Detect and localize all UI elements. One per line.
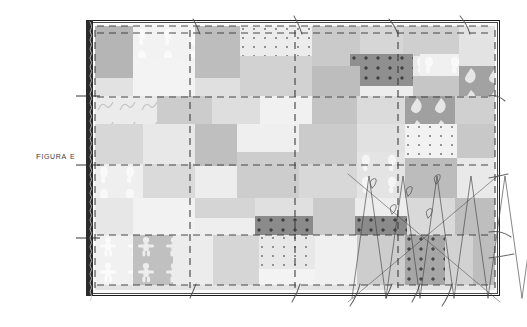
quilt-patch xyxy=(95,198,133,235)
quilt-patch xyxy=(457,158,495,198)
quilt-patch xyxy=(405,96,455,124)
quilt-patch xyxy=(355,198,407,216)
quilt-patch xyxy=(455,96,495,124)
figure-left-spine xyxy=(86,20,93,296)
quilt-patch xyxy=(445,235,473,285)
quilt-patch xyxy=(407,198,455,235)
quilt-patch xyxy=(95,96,157,124)
quilt-patch xyxy=(299,164,357,198)
figure-caption: Figura E xyxy=(36,149,75,162)
quilt-patch xyxy=(240,56,312,96)
quilt-patch xyxy=(195,124,237,166)
quilt-patch xyxy=(237,152,299,198)
quilt-patch xyxy=(313,198,355,235)
quilt-patch xyxy=(459,26,495,66)
quilt-patch xyxy=(315,235,357,285)
quilt-patch xyxy=(143,124,195,164)
quilt-patch xyxy=(95,164,143,198)
quilt-patch xyxy=(133,26,195,58)
quilt-patch xyxy=(357,124,405,152)
quilt-patch xyxy=(405,158,457,198)
quilt-patch xyxy=(195,218,255,235)
quilt-patch xyxy=(405,124,457,158)
quilt-patch xyxy=(413,76,459,96)
quilt-patch xyxy=(312,66,360,96)
quilt-patch xyxy=(259,235,315,269)
quilt-patch xyxy=(173,235,213,285)
quilt-patch xyxy=(405,235,445,285)
quilt-patch xyxy=(157,96,212,124)
quilt-patch xyxy=(420,54,459,76)
quilt-patch xyxy=(259,269,315,285)
quilt-patch xyxy=(95,235,133,285)
quilt-patch xyxy=(143,164,195,198)
quilt-patch xyxy=(95,26,133,78)
quilt-patch xyxy=(212,96,260,124)
quilt-patch xyxy=(360,26,403,54)
quilt-patch xyxy=(299,124,357,164)
quilt-canvas xyxy=(95,26,495,290)
quilt-patch xyxy=(459,66,495,96)
quilt-patch xyxy=(473,235,495,285)
quilt-patch xyxy=(133,235,173,285)
quilt-patch xyxy=(357,235,405,285)
quilt-patch xyxy=(133,58,195,96)
quilt-patch xyxy=(260,96,312,124)
quilt-patch xyxy=(355,216,407,235)
figure-stage: Figura E xyxy=(0,0,527,327)
quilt-patch xyxy=(255,198,313,216)
quilt-patch xyxy=(455,198,495,235)
quilt-patch xyxy=(403,26,459,56)
quilt-patch xyxy=(312,96,357,124)
quilt-patch xyxy=(195,198,255,218)
quilt-patch xyxy=(95,124,143,164)
quilt-patch xyxy=(240,26,312,56)
quilt-patch xyxy=(357,152,405,198)
quilt-patch xyxy=(213,235,259,285)
quilt-patch xyxy=(133,198,195,235)
quilt-patch xyxy=(357,96,405,124)
quilt-patch xyxy=(255,216,313,235)
quilt-patch xyxy=(457,124,495,158)
quilt-patch xyxy=(95,285,495,290)
quilt-patch xyxy=(237,124,299,152)
quilt-patch xyxy=(195,26,240,78)
